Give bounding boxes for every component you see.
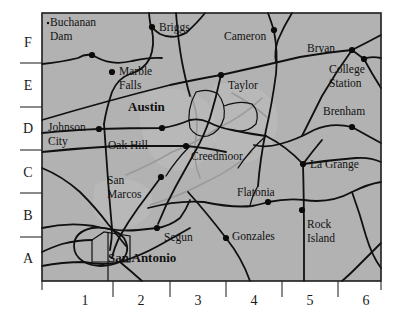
city-dot-marble-falls [109, 69, 115, 75]
city-dot-bryan [349, 47, 355, 53]
city-label-line: Austin [128, 99, 166, 114]
city-dot-college-station [361, 56, 367, 62]
city-label-line: San [107, 174, 125, 186]
city-label-line: Segun [164, 231, 193, 244]
city-label-segun: Segun [164, 231, 193, 244]
city-dot-segun [154, 225, 160, 231]
city-dot-buchanan-dam [89, 52, 95, 58]
city-label-oak-hill: Oak Hill [108, 139, 148, 151]
city-label-line: Gonzales [232, 230, 275, 242]
city-label-san-antonio: San Antonio [108, 250, 176, 265]
city-label-gonzales: Gonzales [232, 230, 275, 242]
city-dot-briggs [149, 24, 155, 30]
grid-column-label-3: 3 [195, 293, 202, 308]
grid-row-label-d: D [23, 121, 33, 136]
city-label-line: Briggs [159, 21, 190, 34]
city-label-line: Johnson [48, 121, 86, 133]
city-dot-san-marcos [158, 174, 164, 180]
grid-column-label-5: 5 [307, 293, 314, 308]
city-label-briggs: Briggs [159, 21, 190, 34]
column-tick-marks [42, 281, 381, 297]
city-label-line: City [48, 135, 68, 148]
city-dot-oak-hill [159, 125, 165, 131]
map-canvas: FEDCBA 123456 BuchananDamBriggsCameronBr… [0, 0, 401, 313]
city-label-line: Bryan [307, 42, 335, 55]
city-label-line: Rock [307, 218, 332, 230]
grid-row-label-b: B [23, 208, 32, 223]
city-label-line: La Grange [310, 158, 359, 171]
grid-column-label-1: 1 [82, 293, 89, 308]
city-label-line: Brenham [323, 105, 365, 117]
city-label-line: Dam [50, 30, 72, 42]
city-label-cameron: Cameron [224, 30, 266, 42]
city-label-line: College [329, 63, 365, 76]
city-dot-cameron [271, 27, 277, 33]
grid-column-label-2: 2 [138, 293, 145, 308]
buchanan-marker-icon [47, 22, 49, 24]
grid-row-label-e: E [24, 78, 33, 93]
city-label-taylor: Taylor [228, 79, 258, 92]
city-label-line: San Antonio [108, 250, 176, 265]
city-dot-taylor [218, 72, 224, 78]
city-label-line: Island [307, 232, 335, 244]
city-dot-rock-island [299, 207, 305, 213]
city-label-la-grange: La Grange [310, 158, 359, 171]
city-label-line: Marble [119, 65, 152, 77]
city-label-line: Oak Hill [108, 139, 148, 151]
city-label-line: Creedmoor [191, 150, 243, 162]
city-label-line: Taylor [228, 79, 258, 92]
grid-column-label-6: 6 [363, 293, 370, 308]
grid-row-label-a: A [23, 251, 34, 266]
city-dot-la-grange [300, 161, 306, 167]
city-dot-gonzales [223, 235, 229, 241]
city-label-bryan: Bryan [307, 42, 335, 55]
city-label-brenham: Brenham [323, 105, 365, 117]
city-label-austin: Austin [128, 99, 166, 114]
city-dot-creedmoor [183, 143, 189, 149]
city-dot-flatonia [265, 199, 271, 205]
grid-column-label-4: 4 [251, 293, 258, 308]
city-label-line: Flatonia [237, 186, 275, 198]
city-dot-johnson-city [96, 126, 102, 132]
city-label-line: Falls [119, 79, 142, 91]
city-label-creedmoor: Creedmoor [191, 150, 243, 162]
map-figure: FEDCBA 123456 BuchananDamBriggsCameronBr… [0, 0, 401, 313]
city-label-line: Station [329, 77, 362, 89]
city-label-flatonia: Flatonia [237, 186, 275, 198]
city-label-line: Marcos [107, 188, 142, 200]
grid-row-label-c: C [23, 165, 32, 180]
city-label-line: Cameron [224, 30, 266, 42]
grid-row-label-f: F [24, 35, 32, 50]
city-dot-brenham [349, 124, 355, 130]
city-label-line: Buchanan [50, 16, 96, 28]
